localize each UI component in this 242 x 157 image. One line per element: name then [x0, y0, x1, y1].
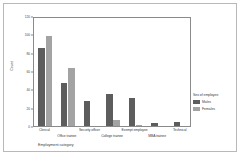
- legend-swatch-males: [193, 100, 200, 104]
- legend-title: Sex of employee: [193, 93, 241, 97]
- bar-males[interactable]: [129, 98, 135, 126]
- bar-males[interactable]: [174, 122, 180, 126]
- bar-group: [57, 18, 80, 126]
- x-tick-label: Security officer: [79, 128, 100, 132]
- bar-males[interactable]: [151, 123, 157, 126]
- legend-item-males[interactable]: Males: [193, 100, 241, 104]
- legend-label-males: Males: [202, 100, 211, 104]
- x-axis-title: Employment category: [38, 143, 74, 147]
- chart-frame: 020406080100120 Count ClericalOffice tra…: [3, 3, 237, 152]
- bar-males[interactable]: [106, 94, 112, 126]
- x-tick-label: MBA trainee: [148, 134, 166, 138]
- y-axis: 020406080100120: [4, 17, 33, 127]
- x-axis-tick-labels: ClericalOffice traineeSecurity officerCo…: [33, 128, 191, 144]
- legend-item-females[interactable]: Females: [193, 107, 241, 111]
- bar-females[interactable]: [113, 120, 119, 126]
- x-tick-label: Technical: [173, 128, 186, 132]
- x-tick-label: Exempt employee: [122, 128, 148, 132]
- y-axis-title: Count: [10, 46, 14, 86]
- bar-group: [124, 18, 147, 126]
- legend: Sex of employee Males Females: [193, 93, 241, 114]
- y-tick-label: 120: [25, 15, 30, 19]
- bar-males[interactable]: [84, 101, 90, 126]
- bar-group: [102, 18, 125, 126]
- x-tick-label: College trainee: [101, 134, 123, 138]
- bar-females[interactable]: [46, 36, 52, 126]
- bars-container: [34, 18, 190, 126]
- x-tick-label: Office trainee: [57, 134, 76, 138]
- plot-area: [33, 17, 191, 127]
- x-tick-label: Clerical: [39, 128, 50, 132]
- bar-males[interactable]: [61, 83, 67, 126]
- y-tick-label: 80: [27, 52, 30, 56]
- bar-group: [147, 18, 170, 126]
- bar-group: [169, 18, 192, 126]
- y-tick-label: 20: [27, 107, 30, 111]
- y-tick-label: 60: [27, 70, 30, 74]
- bar-group: [34, 18, 57, 126]
- bar-females[interactable]: [136, 125, 142, 126]
- bar-group: [79, 18, 102, 126]
- bar-males[interactable]: [38, 48, 44, 126]
- bar-females[interactable]: [68, 68, 74, 126]
- y-tick-label: 100: [25, 33, 30, 37]
- legend-label-females: Females: [202, 107, 215, 111]
- y-tick-label: 40: [27, 88, 30, 92]
- y-tick-label: 0: [28, 125, 30, 129]
- legend-swatch-females: [193, 107, 200, 111]
